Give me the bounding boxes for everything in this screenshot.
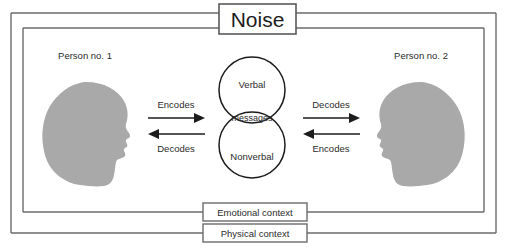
communication-model-diagram: Noise Emotional context Physical context… [0,0,507,250]
right-encodes-arrow-head [303,129,314,139]
diagram-canvas: Noise Emotional context Physical context… [0,0,507,250]
venn-diagram: Verbal messages Nonverbal [219,57,285,178]
venn-nonverbal-label: Nonverbal [230,151,273,162]
left-encodes-arrow-head [194,113,205,123]
emotional-context-box: Emotional context [203,203,307,221]
venn-verbal-label: Verbal [239,79,266,90]
noise-box: Noise [219,4,296,34]
right-encodes-label: Encodes [313,143,350,154]
right-person-label: Person no. 2 [394,50,448,61]
right-decodes-label: Decodes [312,99,350,110]
left-arrows-group: Encodes Decodes [148,99,205,154]
venn-messages-label: messages [231,113,273,123]
head-silhouette-icon-left [42,82,130,186]
right-arrows-group: Decodes Encodes [303,99,360,154]
left-decodes-arrow-head [148,129,159,139]
left-encodes-label: Encodes [158,99,195,110]
left-person-label: Person no. 1 [58,50,112,61]
noise-label: Noise [231,8,285,31]
head-silhouette-icon-right [377,82,465,186]
right-decodes-arrow-head [349,113,360,123]
emotional-context-label: Emotional context [217,207,293,218]
physical-context-label: Physical context [221,228,290,239]
left-decodes-label: Decodes [157,143,195,154]
right-person-group: Person no. 2 [377,50,465,186]
physical-context-box: Physical context [203,224,307,242]
left-person-group: Person no. 1 [42,50,130,186]
